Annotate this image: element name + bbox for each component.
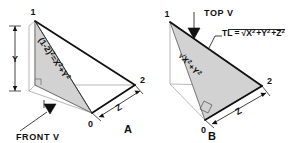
panel-a-vertex-0-label: 0 [88,119,93,129]
panel-b-vertex-2-label: 2 [267,76,272,86]
panel-b-z-dimension-label: Z [234,105,244,117]
box-bottom-back-edge [29,85,35,91]
line-2-to-0 [92,85,135,113]
panel-b-vertex-1-label: 1 [164,9,169,19]
tl-t3-exp: 2 [281,28,285,34]
panel-b-tl-leader-line [209,36,222,48]
panel-a-front-view-leader [20,100,56,131]
drawing-svg: Y Z FRONT V 1 2 0 [0,0,294,143]
panel-a-front-view-label: FRONT V [16,132,60,142]
front-view-leader-line [20,112,47,131]
panel-b-z-arrow-left [212,120,218,124]
technical-drawing-canvas: Y Z FRONT V 1 2 0 [0,0,294,143]
panel-a-vertex-1-label: 1 [30,7,35,17]
panel-a-vertex-2-label: 2 [140,75,145,85]
box-top-back-edge [29,21,35,26]
panel-a-letter: A [124,123,132,135]
panel-a-group: Y Z FRONT V 1 2 0 [9,7,145,142]
panel-b-z-arrow-right [260,93,266,97]
y-dim-arrow-top [13,26,17,31]
panel-a-z-dimension-label: Z [114,101,124,113]
panel-a-y-dimension-label: Y [12,54,18,64]
panel-b-top-view-label: TOP V [204,8,234,18]
y-dim-arrow-bottom [13,86,17,91]
panel-b-letter: B [208,130,216,142]
panel-b-vertex-0-label: 0 [201,125,206,135]
panel-b-group: TOP V TL =√X2+Y2+Z2 √X2+Y2 [164,8,285,142]
panel-b-tl-formula-group: TL =√X2+Y2+Z2 [222,28,285,38]
